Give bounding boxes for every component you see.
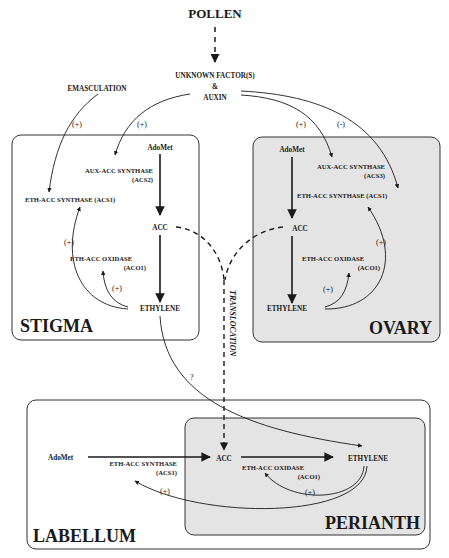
stigma-adomet: AdoMet <box>147 144 173 152</box>
stigma-region-label: STIGMA <box>20 316 93 336</box>
stigma-eth-acc-oxidase-code: (ACO1) <box>124 264 146 272</box>
pollen-label: POLLEN <box>188 6 242 21</box>
question-mark: ? <box>190 373 194 382</box>
perianth-acc: ACC <box>216 455 232 463</box>
perianth-ethylene: ETHYLENE <box>348 455 388 463</box>
stigma-sign-synthase: (+) <box>64 238 74 247</box>
labellum-sign-synthase: (+) <box>160 487 170 496</box>
ovary-region-label: OVARY <box>369 318 432 338</box>
labellum-eth-acc-synthase: ETH-ACC SYNTHASE <box>109 460 177 467</box>
sign-auxin-ovary-acs1: (-) <box>337 120 345 129</box>
ovary-eth-acc-synthase: ETH-ACC SYNTHASE (ACS1) <box>297 192 387 200</box>
stigma-eth-acc-synthase: ETH-ACC SYNTHASE (ACS1) <box>25 196 115 204</box>
stigma-aux-acc-synthase: AUX-ACC SYNTHASE <box>85 167 154 174</box>
ovary-ethylene: ETHYLENE <box>267 305 307 313</box>
labellum-adomet: AdoMet <box>48 454 74 462</box>
ovary-aux-acc-synthase: AUX-ACC SYNTHASE <box>317 163 386 170</box>
ovary-acc: ACC <box>292 225 308 233</box>
ovary-adomet: AdoMet <box>279 146 305 154</box>
perianth-region-label: PERIANTH <box>325 513 420 533</box>
perianth-eth-acc-oxidase-code: (ACO1) <box>298 473 320 481</box>
stigma-aux-acc-synthase-code: (ACS2) <box>132 176 153 184</box>
emasculation-label: EMASCULATION <box>68 85 128 93</box>
labellum-region-label: LABELLUM <box>33 526 136 546</box>
sign-emasculation: (+) <box>72 120 82 129</box>
ovary-eth-acc-oxidase: ETH-ACC OXIDASE <box>302 255 365 262</box>
auxin-label: AUXIN <box>203 94 227 102</box>
ovary-eth-acc-oxidase-code: (ACO1) <box>358 264 380 272</box>
unknown-factor-label: UNKNOWN FACTOR(S) <box>175 72 255 80</box>
translocation-label: TRANSLOCATION <box>228 290 237 357</box>
ampersand-label: & <box>212 83 218 91</box>
sign-auxin-acs3: (+) <box>296 120 306 129</box>
perianth-sign-oxidase: (+) <box>305 488 315 497</box>
labellum-eth-acc-synthase-code: (ACS1) <box>156 469 177 477</box>
ovary-aux-acc-synthase-code: (ACS3) <box>364 172 385 180</box>
stigma-acc: ACC <box>152 224 168 232</box>
ovary-sign-oxidase: (+) <box>323 285 333 294</box>
sign-auxin-acs2: (+) <box>137 120 147 129</box>
stigma-ethylene: ETHYLENE <box>140 305 180 313</box>
perianth-eth-acc-oxidase: ETH-ACC OXIDASE <box>242 464 305 471</box>
ethylene-pathway-diagram: POLLEN UNKNOWN FACTOR(S) & AUXIN EMASCUL… <box>0 0 449 558</box>
ovary-sign-synthase: (+) <box>376 238 386 247</box>
stigma-eth-acc-oxidase: ETH-ACC OXIDASE <box>70 255 133 262</box>
stigma-sign-oxidase: (+) <box>112 284 122 293</box>
